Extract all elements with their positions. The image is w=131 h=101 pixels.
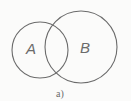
set-a-label: A: [25, 40, 36, 57]
figure-caption: a): [56, 88, 64, 100]
venn-svg: A B a): [0, 0, 131, 101]
venn-diagram: A B a): [0, 0, 131, 101]
set-a-circle: [12, 22, 68, 78]
set-b-label: B: [80, 39, 90, 56]
